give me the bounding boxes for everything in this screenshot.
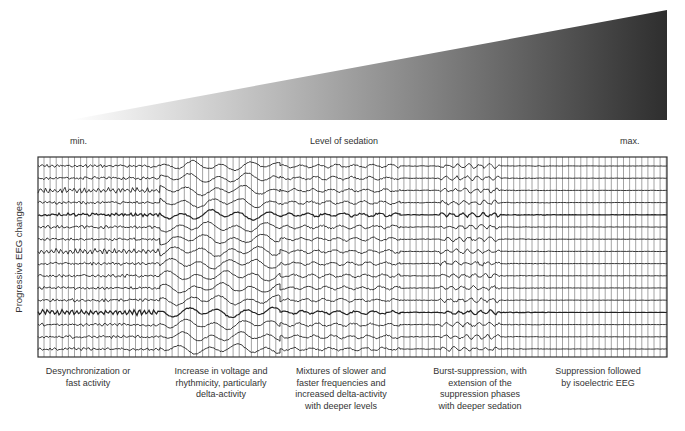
stage-caption-mixed: Mixtures of slower andfaster frequencies… xyxy=(276,366,406,412)
caption-line: faster frequencies and xyxy=(276,378,406,390)
stage-caption-iso: Suppression followedby isoelectric EEG xyxy=(533,366,663,389)
caption-line: Desynchronization or xyxy=(23,366,153,378)
caption-line: with deeper sedation xyxy=(415,401,545,413)
caption-line: fast activity xyxy=(23,378,153,390)
caption-line: Suppression followed xyxy=(533,366,663,378)
stage-caption-delta: Increase in voltage andrhythmicity, part… xyxy=(156,366,286,401)
stage-caption-burst: Burst-suppression, withextension of thes… xyxy=(415,366,545,412)
caption-line: by isoelectric EEG xyxy=(533,378,663,390)
caption-line: Mixtures of slower and xyxy=(276,366,406,378)
caption-line: Increase in voltage and xyxy=(156,366,286,378)
caption-line: delta-activity xyxy=(156,389,286,401)
caption-line: increased delta-activity xyxy=(276,389,406,401)
caption-line: Burst-suppression, with xyxy=(415,366,545,378)
caption-line: extension of the xyxy=(415,378,545,390)
stage-caption-desync: Desynchronization orfast activity xyxy=(23,366,153,389)
caption-line: suppression phases xyxy=(415,389,545,401)
caption-line: rhythmicity, particularly xyxy=(156,378,286,390)
caption-line: with deeper levels xyxy=(276,401,406,413)
